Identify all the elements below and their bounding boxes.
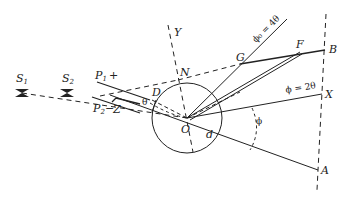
- label-S1: S1: [16, 72, 28, 86]
- label-P1: P1+: [94, 69, 118, 83]
- phi-arc: [250, 108, 257, 150]
- label-B: B: [328, 43, 337, 56]
- optics-diagram: S1 S2 P1+ P2− Z D θ N Y G F B X A O d ϕ …: [0, 0, 345, 206]
- label-theta: θ: [142, 97, 147, 107]
- label-X: X: [324, 88, 334, 101]
- dashed-N-B: [100, 80, 178, 96]
- label-A: A: [320, 164, 329, 177]
- label-F: F: [295, 38, 304, 51]
- label-P2: P2−: [92, 102, 114, 116]
- label-S2: S2: [62, 72, 75, 86]
- label-D: D: [151, 86, 161, 99]
- diagram-svg: S1 S2 P1+ P2− Z D θ N Y G F B X A O d ϕ …: [0, 0, 345, 206]
- label-N: N: [179, 66, 190, 79]
- label-G: G: [236, 51, 245, 64]
- label-d: d: [206, 128, 213, 141]
- label-phi: ϕ: [256, 116, 262, 126]
- s2-marker: [60, 89, 74, 97]
- label-Z: Z: [112, 103, 121, 116]
- label-Y: Y: [174, 26, 183, 39]
- dashed-O-D: [152, 100, 187, 118]
- label-O: O: [181, 123, 190, 136]
- label-phi-line: ϕ = 2θ: [285, 80, 317, 95]
